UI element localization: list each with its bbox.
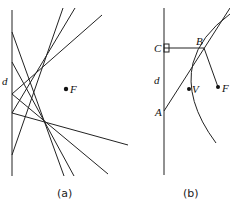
caption-b: (b) xyxy=(183,187,199,200)
label-V: V xyxy=(192,83,200,95)
label-C: C xyxy=(154,42,162,54)
vertex-point xyxy=(187,87,191,91)
label-A: A xyxy=(154,106,162,118)
label-d-b: d xyxy=(154,74,160,86)
caption-a: (a) xyxy=(57,187,72,200)
tangent-line xyxy=(12,113,128,145)
segment-BF xyxy=(204,48,218,87)
tangent-line xyxy=(12,32,64,176)
label-B: B xyxy=(196,35,203,47)
label-F-a: F xyxy=(69,83,77,95)
tangent-line xyxy=(12,8,63,155)
diagram-canvas: d F (a) C B d A V F (b) xyxy=(0,0,230,213)
focus-point-a xyxy=(64,87,68,91)
label-d-a: d xyxy=(2,75,8,87)
tangent-line xyxy=(12,15,102,94)
tangent-line-AB xyxy=(164,8,230,111)
tangent-line xyxy=(12,94,108,174)
focus-point-b xyxy=(216,85,220,89)
tangent-line xyxy=(12,8,75,113)
parabola-curve xyxy=(191,14,230,143)
tangent-line xyxy=(12,62,74,176)
label-F-b: F xyxy=(221,82,229,94)
